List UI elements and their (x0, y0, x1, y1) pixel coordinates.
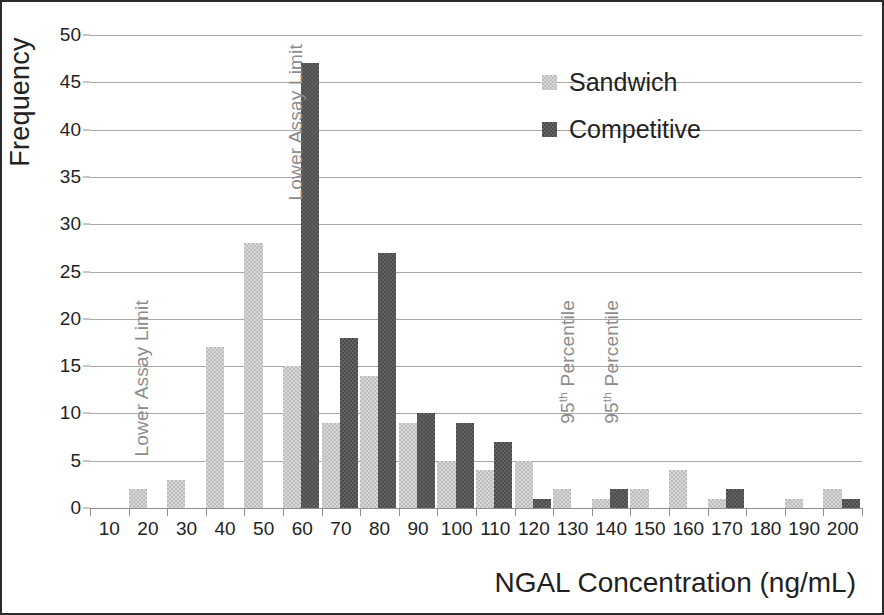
x-axis-tick-label: 110 (480, 518, 510, 540)
bar-sandwich (360, 376, 378, 508)
x-axis-tick-label: 80 (369, 518, 390, 540)
y-axis-tick-label: 45 (60, 71, 81, 93)
y-axis-tick-label: 20 (60, 308, 81, 330)
bar-group (206, 35, 245, 508)
bar-sandwich (785, 499, 803, 508)
x-axis-tick-mark (244, 508, 245, 516)
chart-figure: Frequency 05101520253035404550 Lower Ass… (0, 0, 884, 615)
bar-group (437, 35, 476, 508)
x-axis-tick-mark (90, 508, 91, 516)
bar-sandwich (206, 347, 224, 508)
x-axis-tick-mark (862, 508, 863, 516)
x-axis-tick-label: 180 (750, 518, 782, 540)
bar-group (476, 35, 515, 508)
x-axis-tick-label: 120 (518, 518, 550, 540)
y-axis-tick-mark (83, 318, 90, 319)
x-axis-tick-label: 70 (330, 518, 351, 540)
legend-label: Sandwich (569, 68, 677, 97)
y-axis-tick-mark (83, 460, 90, 461)
y-axis-tick-label: 5 (70, 450, 81, 472)
x-axis-tick-label: 40 (215, 518, 236, 540)
bar-competitive (494, 442, 512, 508)
x-axis-tick-mark (129, 508, 130, 516)
bar-sandwich (669, 470, 687, 508)
x-axis-tick-mark (360, 508, 361, 516)
bar-group (244, 35, 283, 508)
bar-sandwich (515, 461, 533, 508)
bar-group (90, 35, 129, 508)
x-axis-tick-mark (669, 508, 670, 516)
legend-item-sandwich: Sandwich (542, 68, 701, 97)
y-axis-tick-mark (83, 176, 90, 177)
bar-group (746, 35, 785, 508)
legend-swatch-icon (542, 122, 557, 137)
plot-area: 05101520253035404550 Lower Assay LimitLo… (90, 35, 862, 508)
bar-competitive (456, 423, 474, 508)
x-axis-tick-label: 20 (137, 518, 158, 540)
bar-competitive (340, 338, 358, 508)
x-axis-tick-mark (746, 508, 747, 516)
chart-annotation: Lower Assay Limit (285, 44, 307, 201)
bar-competitive (417, 413, 435, 508)
legend-swatch-icon (542, 75, 557, 90)
bar-group (399, 35, 438, 508)
bar-sandwich (630, 489, 648, 508)
bar-group (708, 35, 747, 508)
bar-sandwich (553, 489, 571, 508)
bar-group (360, 35, 399, 508)
y-axis-tick-mark (83, 224, 90, 225)
bar-sandwich (129, 489, 147, 508)
x-axis-tick-label: 140 (595, 518, 627, 540)
bar-sandwich (167, 480, 185, 508)
x-axis-tick-label: 90 (408, 518, 429, 540)
x-axis-tick-mark (322, 508, 323, 516)
y-axis-tick-mark (83, 129, 90, 130)
y-axis-tick-label: 35 (60, 166, 81, 188)
chart-annotation: 95th Percentile (600, 300, 623, 424)
bar-sandwich (283, 366, 301, 508)
y-axis-tick-label: 15 (60, 355, 81, 377)
x-axis-tick-mark (785, 508, 786, 516)
x-axis-tick-mark (553, 508, 554, 516)
bar-sandwich (823, 489, 841, 508)
bar-group (785, 35, 824, 508)
y-axis-tick-mark (83, 366, 90, 367)
y-axis-tick-mark (83, 508, 90, 509)
y-axis-tick-mark (83, 82, 90, 83)
x-axis-tick-mark (437, 508, 438, 516)
x-axis-tick-label: 30 (176, 518, 197, 540)
x-axis-tick-mark (823, 508, 824, 516)
legend-item-competitive: Competitive (542, 115, 701, 144)
y-axis-tick-label: 25 (60, 261, 81, 283)
y-axis-title: Frequency (0, 2, 40, 202)
bar-series-layer (90, 35, 862, 508)
bar-competitive (378, 253, 396, 508)
bar-competitive (610, 489, 628, 508)
bar-competitive (533, 499, 551, 508)
x-axis-tick-label: 130 (557, 518, 589, 540)
y-axis-tick-label: 0 (70, 497, 81, 519)
x-axis-tick-mark (592, 508, 593, 516)
x-axis-tick-label: 200 (827, 518, 859, 540)
y-axis-tick-label: 50 (60, 24, 81, 46)
y-axis-tick-label: 40 (60, 119, 81, 141)
chart-annotation: Lower Assay Limit (131, 300, 153, 457)
bar-sandwich (592, 499, 610, 508)
y-axis-tick-mark (83, 35, 90, 36)
y-axis-tick-mark (83, 413, 90, 414)
chart-legend: SandwichCompetitive (542, 68, 701, 144)
x-axis-tick-label: 60 (292, 518, 313, 540)
chart-annotation: 95th Percentile (556, 300, 579, 424)
x-axis-tick-mark (630, 508, 631, 516)
x-axis-tick-label: 170 (711, 518, 743, 540)
legend-label: Competitive (569, 115, 701, 144)
y-axis-tick-label: 10 (60, 402, 81, 424)
x-axis-tick-mark (476, 508, 477, 516)
x-axis-tick-mark (515, 508, 516, 516)
bar-sandwich (399, 423, 417, 508)
bar-group (322, 35, 361, 508)
bar-sandwich (708, 499, 726, 508)
bar-group (823, 35, 862, 508)
x-axis-tick-mark (206, 508, 207, 516)
bar-competitive (842, 499, 860, 508)
